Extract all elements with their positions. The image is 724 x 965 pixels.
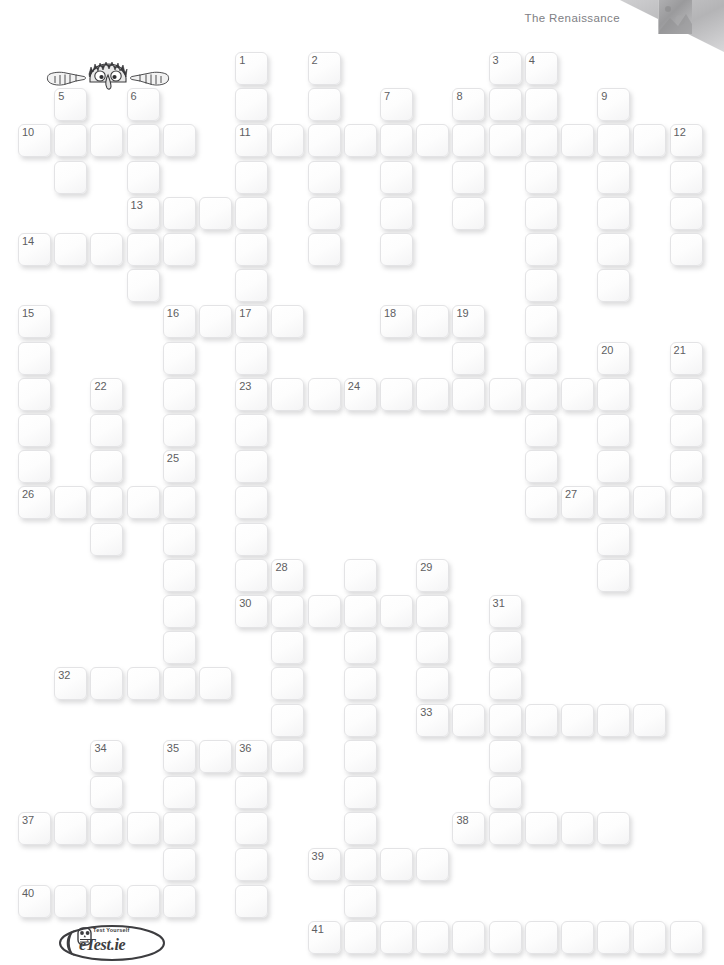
crossword-cell-start[interactable]: 15 (18, 305, 51, 338)
crossword-cell[interactable] (271, 704, 304, 737)
crossword-cell-start[interactable]: 38 (452, 812, 485, 845)
crossword-cell-start[interactable]: 7 (380, 88, 413, 121)
crossword-cell[interactable] (525, 342, 558, 375)
crossword-cell-start[interactable]: 13 (127, 197, 160, 230)
crossword-cell[interactable] (525, 812, 558, 845)
crossword-cell[interactable] (271, 740, 304, 773)
crossword-cell[interactable] (163, 631, 196, 664)
crossword-cell-start[interactable]: 19 (452, 305, 485, 338)
crossword-cell[interactable] (308, 161, 341, 194)
crossword-cell[interactable] (597, 559, 630, 592)
crossword-cell[interactable] (489, 124, 522, 157)
crossword-cell[interactable] (489, 921, 522, 954)
crossword-cell[interactable] (163, 812, 196, 845)
crossword-cell[interactable] (127, 885, 160, 918)
crossword-cell[interactable] (90, 414, 123, 447)
crossword-cell[interactable] (235, 885, 268, 918)
crossword-cell[interactable] (670, 161, 703, 194)
crossword-cell[interactable] (235, 269, 268, 302)
crossword-cell[interactable] (380, 921, 413, 954)
crossword-cell[interactable] (235, 776, 268, 809)
crossword-cell[interactable] (670, 921, 703, 954)
crossword-cell[interactable] (54, 885, 87, 918)
crossword-cell[interactable] (670, 197, 703, 230)
crossword-cell[interactable] (525, 197, 558, 230)
crossword-cell[interactable] (163, 486, 196, 519)
crossword-cell[interactable] (489, 704, 522, 737)
crossword-cell-start[interactable]: 22 (90, 378, 123, 411)
crossword-cell[interactable] (597, 704, 630, 737)
crossword-cell[interactable] (452, 378, 485, 411)
crossword-cell[interactable] (380, 233, 413, 266)
crossword-cell[interactable] (597, 921, 630, 954)
crossword-cell[interactable] (235, 342, 268, 375)
crossword-cell[interactable] (163, 233, 196, 266)
crossword-cell[interactable] (54, 486, 87, 519)
crossword-cell[interactable] (525, 486, 558, 519)
crossword-cell[interactable] (416, 378, 449, 411)
crossword-cell[interactable] (54, 812, 87, 845)
crossword-cell[interactable] (271, 595, 304, 628)
crossword-cell[interactable] (163, 414, 196, 447)
crossword-cell[interactable] (163, 848, 196, 881)
crossword-cell-start[interactable]: 36 (235, 740, 268, 773)
crossword-cell[interactable] (235, 197, 268, 230)
crossword-cell[interactable] (127, 233, 160, 266)
crossword-cell[interactable] (452, 197, 485, 230)
crossword-cell[interactable] (597, 450, 630, 483)
crossword-cell[interactable] (561, 921, 594, 954)
crossword-cell-start[interactable]: 34 (90, 740, 123, 773)
crossword-cell-start[interactable]: 2 (308, 52, 341, 85)
crossword-cell[interactable] (416, 124, 449, 157)
crossword-cell[interactable] (525, 161, 558, 194)
crossword-cell[interactable] (90, 450, 123, 483)
crossword-cell[interactable] (525, 124, 558, 157)
crossword-cell[interactable] (235, 233, 268, 266)
crossword-cell[interactable] (235, 848, 268, 881)
crossword-cell[interactable] (380, 161, 413, 194)
crossword-cell[interactable] (525, 269, 558, 302)
crossword-cell[interactable] (235, 559, 268, 592)
crossword-cell[interactable] (525, 305, 558, 338)
crossword-cell[interactable] (18, 414, 51, 447)
crossword-cell[interactable] (489, 776, 522, 809)
crossword-cell-start[interactable]: 24 (344, 378, 377, 411)
crossword-cell-start[interactable]: 8 (452, 88, 485, 121)
crossword-cell[interactable] (163, 595, 196, 628)
crossword-cell[interactable] (525, 704, 558, 737)
crossword-cell[interactable] (90, 885, 123, 918)
crossword-cell[interactable] (380, 595, 413, 628)
crossword-cell[interactable] (54, 124, 87, 157)
crossword-cell[interactable] (308, 88, 341, 121)
crossword-cell[interactable] (18, 450, 51, 483)
crossword-cell[interactable] (452, 921, 485, 954)
crossword-cell-start[interactable]: 25 (163, 450, 196, 483)
crossword-cell[interactable] (54, 233, 87, 266)
crossword-cell[interactable] (127, 486, 160, 519)
crossword-cell[interactable] (416, 667, 449, 700)
crossword-cell[interactable] (670, 233, 703, 266)
crossword-cell[interactable] (380, 378, 413, 411)
crossword-cell-start[interactable]: 20 (597, 342, 630, 375)
crossword-cell-start[interactable]: 14 (18, 233, 51, 266)
crossword-cell[interactable] (235, 486, 268, 519)
crossword-cell-start[interactable]: 41 (308, 921, 341, 954)
crossword-cell[interactable] (271, 124, 304, 157)
crossword-cell[interactable] (90, 523, 123, 556)
crossword-cell[interactable] (416, 305, 449, 338)
crossword-cell[interactable] (163, 559, 196, 592)
crossword-cell[interactable] (597, 378, 630, 411)
crossword-cell[interactable] (344, 921, 377, 954)
crossword-cell-start[interactable]: 28 (271, 559, 304, 592)
crossword-cell[interactable] (597, 161, 630, 194)
crossword-cell[interactable] (18, 342, 51, 375)
crossword-cell[interactable] (633, 486, 666, 519)
crossword-cell-start[interactable]: 11 (235, 124, 268, 157)
crossword-cell[interactable] (597, 233, 630, 266)
crossword-cell-start[interactable]: 18 (380, 305, 413, 338)
crossword-cell[interactable] (163, 197, 196, 230)
crossword-cell[interactable] (199, 667, 232, 700)
crossword-cell[interactable] (452, 342, 485, 375)
crossword-cell[interactable] (271, 305, 304, 338)
crossword-cell[interactable] (561, 378, 594, 411)
